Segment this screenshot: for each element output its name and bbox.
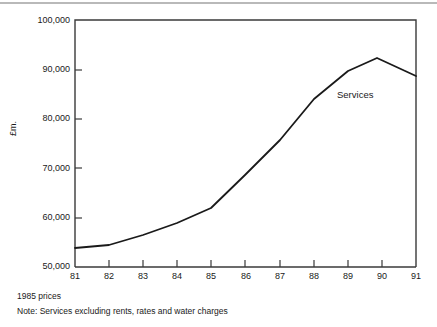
chart-figure: £m. 100,000 90,000 80,000 70,000 60,000 …	[0, 0, 437, 327]
chart-plot-area	[0, 0, 437, 327]
axis-frame	[75, 20, 416, 267]
series-label-services: Services	[337, 89, 373, 100]
x-axis-ticks	[109, 260, 382, 267]
data-line-services	[75, 58, 416, 248]
footnote-note: Note: Services excluding rents, rates an…	[17, 306, 228, 316]
footnote-prices: 1985 prices	[17, 291, 61, 301]
y-axis-ticks	[75, 70, 82, 218]
